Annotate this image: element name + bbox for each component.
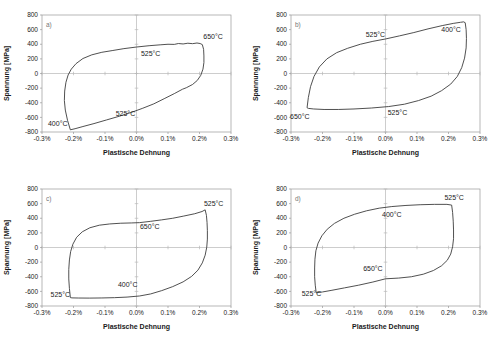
temperature-label: 650°C xyxy=(203,33,223,40)
temperature-label: 400°C xyxy=(441,26,461,33)
y-tick-label: 600 xyxy=(27,26,38,33)
x-tick-label: -0.3% xyxy=(34,135,51,142)
chart-svg: -0.3%-0.2%-0.1%0.0%0.1%0.2%0.3%800600400… xyxy=(249,0,497,173)
x-tick-label: 0.1% xyxy=(410,135,425,142)
x-axis-title: Plastische Dehnung xyxy=(103,149,170,157)
x-tick-label: 0.2% xyxy=(441,135,456,142)
y-tick-label: -200 xyxy=(274,84,287,91)
chart-svg: -0.3%-0.2%-0.1%0.0%0.1%0.2%0.3%800600400… xyxy=(0,174,248,347)
x-tick-label: 0.1% xyxy=(410,309,425,316)
panel-label: c) xyxy=(46,195,51,203)
x-tick-label: -0.1% xyxy=(97,309,114,316)
y-tick-label: 600 xyxy=(27,200,38,207)
y-tick-label: -200 xyxy=(25,84,38,91)
y-tick-label: 200 xyxy=(276,229,287,236)
chart-panel-d: -0.3%-0.2%-0.1%0.0%0.1%0.2%0.3%800600400… xyxy=(249,174,497,347)
x-tick-label: -0.2% xyxy=(314,135,331,142)
chart-svg: -0.3%-0.2%-0.1%0.0%0.1%0.2%0.3%800600400… xyxy=(249,174,497,347)
y-tick-label: 200 xyxy=(276,55,287,62)
y-tick-label: 0 xyxy=(283,244,287,251)
chart-panel-b: -0.3%-0.2%-0.1%0.0%0.1%0.2%0.3%800600400… xyxy=(249,0,497,173)
x-tick-label: -0.3% xyxy=(283,309,300,316)
y-tick-label: -400 xyxy=(274,99,287,106)
x-tick-label: -0.1% xyxy=(346,309,363,316)
y-tick-label: 800 xyxy=(27,11,38,18)
y-tick-label: -600 xyxy=(274,288,287,295)
y-tick-label: 600 xyxy=(276,200,287,207)
x-tick-label: 0.1% xyxy=(161,135,176,142)
temperature-label: 525°C xyxy=(204,200,224,207)
temperature-label: 650°C xyxy=(363,265,383,272)
y-tick-label: -800 xyxy=(274,128,287,135)
temperature-label: 525°C xyxy=(50,291,70,298)
y-tick-label: 600 xyxy=(276,26,287,33)
x-axis-title: Plastische Dehnung xyxy=(103,323,170,331)
hysteresis-figure: -0.3%-0.2%-0.1%0.0%0.1%0.2%0.3%800600400… xyxy=(0,0,497,347)
temperature-label: 400°C xyxy=(48,120,68,127)
y-tick-label: -200 xyxy=(25,258,38,265)
y-tick-label: -400 xyxy=(25,99,38,106)
x-tick-label: -0.2% xyxy=(65,309,82,316)
y-tick-label: 0 xyxy=(34,244,38,251)
x-tick-label: 0.0% xyxy=(129,309,144,316)
y-tick-label: -800 xyxy=(25,302,38,309)
chart-panel-a: -0.3%-0.2%-0.1%0.0%0.1%0.2%0.3%800600400… xyxy=(0,0,248,173)
x-axis-title: Plastische Dehnung xyxy=(352,323,419,331)
temperature-label: 650°C xyxy=(140,223,160,230)
temperature-label: 525°C xyxy=(141,50,161,57)
panel-label: b) xyxy=(295,21,301,29)
y-axis-title: Spannung [MPa] xyxy=(3,220,11,275)
x-tick-label: -0.2% xyxy=(314,309,331,316)
hysteresis-loop xyxy=(64,43,204,130)
y-tick-label: 800 xyxy=(27,185,38,192)
y-tick-label: 800 xyxy=(276,11,287,18)
x-tick-label: 0.0% xyxy=(378,309,393,316)
x-tick-label: 0.3% xyxy=(224,135,239,142)
x-tick-label: -0.2% xyxy=(65,135,82,142)
hysteresis-loop xyxy=(69,210,208,298)
y-tick-label: -600 xyxy=(25,288,38,295)
y-tick-label: 400 xyxy=(276,40,287,47)
hysteresis-loop xyxy=(307,22,466,110)
panel-label: d) xyxy=(295,195,301,203)
y-tick-label: -800 xyxy=(274,302,287,309)
x-tick-label: -0.3% xyxy=(34,309,51,316)
temperature-label: 525°C xyxy=(366,31,386,38)
temperature-label: 525°C xyxy=(444,194,464,201)
x-tick-label: 0.3% xyxy=(473,309,488,316)
x-tick-label: -0.1% xyxy=(346,135,363,142)
x-tick-label: 0.3% xyxy=(473,135,488,142)
panel-label: a) xyxy=(46,21,52,29)
y-tick-label: -600 xyxy=(274,114,287,121)
chart-svg: -0.3%-0.2%-0.1%0.0%0.1%0.2%0.3%800600400… xyxy=(0,0,248,173)
chart-panel-c: -0.3%-0.2%-0.1%0.0%0.1%0.2%0.3%800600400… xyxy=(0,174,248,347)
temperature-label: 525°C xyxy=(302,290,322,297)
temperature-label: 525°C xyxy=(388,109,408,116)
x-axis-title: Plastische Dehnung xyxy=(352,149,419,157)
y-axis-title: Spannung [MPa] xyxy=(3,46,11,101)
y-tick-label: 400 xyxy=(276,214,287,221)
temperature-label: 400°C xyxy=(382,211,402,218)
x-tick-label: 0.2% xyxy=(192,309,207,316)
y-tick-label: -600 xyxy=(25,114,38,121)
y-tick-label: 800 xyxy=(276,185,287,192)
y-tick-label: 400 xyxy=(27,214,38,221)
y-tick-label: 200 xyxy=(27,55,38,62)
y-tick-label: -800 xyxy=(25,128,38,135)
y-tick-label: 0 xyxy=(34,70,38,77)
y-tick-label: -400 xyxy=(25,273,38,280)
temperature-label: 525°C xyxy=(116,110,136,117)
y-tick-label: 200 xyxy=(27,229,38,236)
x-tick-label: 0.2% xyxy=(192,135,207,142)
y-tick-label: 0 xyxy=(283,70,287,77)
y-axis-title: Spannung [MPa] xyxy=(252,46,260,101)
y-tick-label: -400 xyxy=(274,273,287,280)
temperature-label: 650°C xyxy=(290,113,310,120)
y-tick-label: -200 xyxy=(274,258,287,265)
x-tick-label: 0.0% xyxy=(378,135,393,142)
x-tick-label: -0.3% xyxy=(283,135,300,142)
x-tick-label: -0.1% xyxy=(97,135,114,142)
x-tick-label: 0.2% xyxy=(441,309,456,316)
x-tick-label: 0.1% xyxy=(161,309,176,316)
temperature-label: 400°C xyxy=(118,281,138,288)
